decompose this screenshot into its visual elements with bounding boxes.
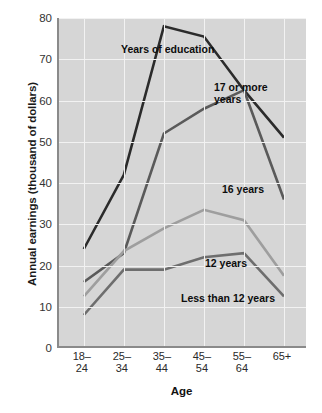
gridline-horizontal: [59, 18, 306, 19]
gridline-horizontal: [59, 307, 306, 308]
gridline-horizontal: [59, 183, 306, 184]
x-axis-title: Age: [57, 385, 306, 397]
y-axis-tick-label: 50: [6, 136, 52, 148]
annotation-years-of-education: Years of education: [121, 44, 214, 56]
y-axis-tick-label: 10: [6, 301, 52, 313]
y-axis-tick-label: 30: [6, 218, 52, 230]
gridline-horizontal: [59, 142, 306, 143]
plot-area: Years of education 17 or more years 16 y…: [57, 18, 306, 348]
x-axis-tick-label: 65+: [256, 351, 308, 363]
y-axis-tick-label: 80: [6, 12, 52, 24]
gridline-vertical: [124, 18, 125, 346]
chart-figure: Annual earnings (thousand of dollars) 01…: [0, 0, 322, 413]
annotation-series-16-years: 16 years: [222, 184, 264, 196]
gridline-horizontal: [59, 224, 306, 225]
annotation-series-17-or-more-years: 17 or more years: [214, 82, 268, 105]
annotation-series-less-than-12-years: Less than 12 years: [181, 293, 275, 305]
y-axis-tick-label: 40: [6, 177, 52, 189]
y-axis-ticks: 01020304050607080: [0, 18, 52, 348]
series-line-12-years: [84, 210, 284, 297]
y-axis-tick-label: 70: [6, 53, 52, 65]
gridline-vertical: [164, 18, 165, 346]
gridline-horizontal: [59, 59, 306, 60]
y-axis-tick-label: 20: [6, 260, 52, 272]
gridline-vertical: [84, 18, 85, 346]
gridline-horizontal: [59, 101, 306, 102]
y-axis-tick-label: 60: [6, 95, 52, 107]
gridline-vertical: [284, 18, 285, 346]
gridline-horizontal: [59, 266, 306, 267]
y-axis-tick-label: 0: [6, 342, 52, 354]
annotation-series-12-years: 12 years: [205, 258, 247, 270]
